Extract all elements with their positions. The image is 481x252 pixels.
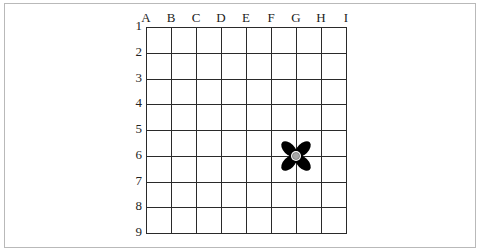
column-label: G <box>286 10 306 26</box>
row-label: 3 <box>130 70 142 86</box>
grid-row-line <box>146 156 347 157</box>
four-petal-flower-icon <box>276 136 316 176</box>
column-label: I <box>336 10 356 26</box>
row-label: 7 <box>130 173 142 189</box>
grid-row-line <box>146 104 347 105</box>
row-label: 9 <box>130 224 142 240</box>
column-label: D <box>211 10 231 26</box>
grid-row-line <box>146 130 347 131</box>
row-label: 4 <box>130 95 142 111</box>
column-label: E <box>236 10 256 26</box>
row-label: 6 <box>130 147 142 163</box>
coordinate-grid <box>146 27 346 233</box>
grid-row-line <box>146 233 347 234</box>
row-label: 1 <box>130 18 142 34</box>
column-label: B <box>161 10 181 26</box>
column-label: F <box>261 10 281 26</box>
grid-row-line <box>146 27 347 28</box>
row-label: 5 <box>130 121 142 137</box>
grid-row-line <box>146 182 347 183</box>
grid-row-line <box>146 53 347 54</box>
column-label: C <box>186 10 206 26</box>
row-label: 8 <box>130 198 142 214</box>
row-label: 2 <box>130 44 142 60</box>
column-label: H <box>311 10 331 26</box>
grid-row-line <box>146 207 347 208</box>
grid-row-line <box>146 79 347 80</box>
